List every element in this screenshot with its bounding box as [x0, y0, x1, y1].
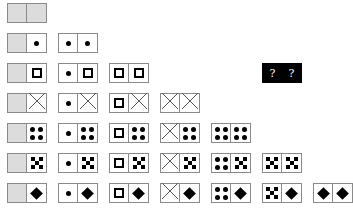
tile-left-face — [212, 124, 231, 142]
square-icon — [83, 68, 93, 78]
checker-icon — [235, 157, 247, 169]
dot-icon — [66, 161, 71, 166]
tile-left-face — [59, 154, 78, 172]
domino-tile — [160, 183, 200, 203]
square-icon — [32, 68, 42, 78]
tile-left-face — [8, 154, 27, 172]
diamond-icon — [234, 187, 247, 200]
tile-right-face — [180, 184, 199, 202]
domino-tile — [58, 123, 98, 143]
dot-icon — [66, 71, 71, 76]
tile-left-face — [212, 184, 231, 202]
domino-tile — [7, 93, 47, 113]
domino-tile — [109, 183, 149, 203]
domino-tile — [262, 183, 302, 203]
domino-tile — [109, 93, 149, 113]
domino-tile — [211, 183, 251, 203]
square-icon — [114, 98, 124, 108]
four-dots-icon — [132, 127, 145, 140]
tile-left-face — [212, 154, 231, 172]
tile-right-face — [27, 4, 46, 22]
four-dots-icon — [215, 157, 228, 170]
tile-left-face — [8, 124, 27, 142]
domino-tile — [58, 153, 98, 173]
cross-icon — [181, 92, 199, 114]
diamond-icon — [132, 187, 145, 200]
question-mark-right: ? — [289, 67, 295, 80]
tile-right-face — [78, 94, 97, 112]
cross-icon — [130, 92, 148, 114]
diamond-icon — [81, 187, 94, 200]
tile-right-face — [333, 184, 352, 202]
tile-right-face — [27, 154, 46, 172]
diamond-icon — [285, 187, 298, 200]
checker-icon — [31, 157, 43, 169]
tile-left-face — [110, 184, 129, 202]
checker-icon — [286, 157, 298, 169]
tile-right-face — [78, 184, 97, 202]
tile-left-face — [59, 94, 78, 112]
tile-right-face — [78, 154, 97, 172]
domino-tile — [7, 123, 47, 143]
tile-right-face — [231, 124, 250, 142]
tile-right-face — [78, 124, 97, 142]
unknown-tile: ? ? — [262, 63, 302, 83]
diamond-icon — [336, 187, 349, 200]
domino-tile — [109, 63, 149, 83]
square-icon — [114, 68, 124, 78]
domino-tile — [109, 123, 149, 143]
domino-tile — [58, 93, 98, 113]
dot-icon — [85, 41, 90, 46]
tile-left-face — [110, 64, 129, 82]
tile-right-face — [129, 184, 148, 202]
question-mark-left: ? — [270, 67, 276, 80]
dot-icon — [66, 41, 71, 46]
tile-left-face — [263, 154, 282, 172]
tile-left-face — [8, 94, 27, 112]
square-icon — [114, 188, 124, 198]
tile-right-face — [180, 124, 199, 142]
domino-tile — [7, 63, 47, 83]
four-dots-icon — [234, 127, 247, 140]
square-icon — [114, 158, 124, 168]
cross-icon — [161, 152, 179, 174]
domino-tile — [58, 63, 98, 83]
domino-tile — [58, 33, 98, 53]
cross-icon — [79, 92, 97, 114]
tile-left-face — [59, 124, 78, 142]
tile-left-face — [110, 94, 129, 112]
tile-left-face — [8, 64, 27, 82]
domino-tile — [313, 183, 353, 203]
four-dots-icon — [30, 127, 43, 140]
tile-left-face — [8, 34, 27, 52]
tile-right-face — [78, 64, 97, 82]
diamond-icon — [183, 187, 196, 200]
tile-left-face — [314, 184, 333, 202]
domino-tile — [109, 153, 149, 173]
tile-right-face — [129, 64, 148, 82]
domino-tile — [211, 153, 251, 173]
square-icon — [134, 68, 144, 78]
checker-icon — [184, 157, 196, 169]
checker-icon — [266, 187, 278, 199]
domino-tile — [58, 183, 98, 203]
tile-right-face — [27, 34, 46, 52]
tile-left-face — [110, 154, 129, 172]
tile-right-face — [282, 154, 301, 172]
cross-icon — [161, 122, 179, 144]
domino-tile — [211, 123, 251, 143]
tile-right-face — [129, 124, 148, 142]
tile-left-face — [59, 184, 78, 202]
square-icon — [114, 128, 124, 138]
diamond-icon — [30, 187, 43, 200]
tile-right-face — [231, 184, 250, 202]
dot-icon — [34, 41, 39, 46]
domino-tile — [7, 153, 47, 173]
dot-icon — [66, 131, 71, 136]
dot-icon — [66, 191, 71, 196]
unknown-right-half: ? — [282, 64, 301, 82]
tile-right-face — [180, 94, 199, 112]
domino-tile — [7, 3, 47, 23]
tile-left-face — [59, 64, 78, 82]
